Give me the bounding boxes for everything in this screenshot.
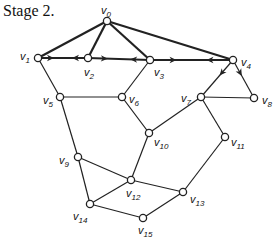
edge-v9-v14	[78, 157, 90, 204]
node-v11	[221, 133, 228, 140]
node-v4	[229, 56, 236, 63]
nodes-layer	[34, 17, 257, 221]
label-v2: v2	[84, 66, 95, 81]
label-v5: v5	[43, 94, 54, 109]
label-v0: v0	[101, 4, 112, 19]
edge-v1-v5	[38, 58, 60, 97]
label-v4: v4	[241, 56, 252, 71]
label-v7: v7	[181, 92, 192, 107]
label-v11: v11	[231, 136, 245, 151]
node-v1	[34, 54, 41, 61]
node-v2	[84, 54, 91, 61]
label-v3: v3	[154, 66, 165, 81]
label-v13: v13	[190, 193, 205, 208]
edge-v12-v13	[131, 180, 183, 192]
labels-layer: v0v1v2v3v4v5v6v7v8v9v10v11v12v13v14v15	[20, 4, 273, 239]
graph-diagram: v0v1v2v3v4v5v6v7v8v9v10v11v12v13v14v15	[0, 0, 276, 239]
edge-v0-v4	[107, 21, 233, 60]
edge-v4-v7	[201, 60, 233, 97]
edge-v3-v6	[122, 60, 150, 97]
edge-v12-v14	[90, 180, 131, 204]
edge-v7-v10	[149, 97, 201, 133]
node-v15	[139, 214, 146, 221]
edge-v2-v3	[88, 58, 150, 60]
node-v5	[56, 93, 63, 100]
node-v3	[146, 56, 153, 63]
label-v1: v1	[20, 50, 30, 65]
node-v6	[118, 93, 125, 100]
label-v10: v10	[154, 136, 169, 151]
edge-v10-v12	[131, 133, 149, 180]
node-v10	[145, 129, 152, 136]
edge-v5-v9	[60, 97, 78, 157]
label-v6: v6	[129, 93, 140, 108]
arrows-layer	[47, 55, 242, 76]
node-v8	[250, 94, 257, 101]
label-v8: v8	[262, 94, 273, 109]
label-v14: v14	[73, 210, 88, 225]
edge-v11-v13	[183, 137, 225, 192]
label-v12: v12	[126, 187, 141, 202]
node-v9	[74, 153, 81, 160]
edge-v7-v8	[201, 97, 254, 98]
edges-layer	[38, 21, 254, 218]
edge-v15-v13	[143, 192, 183, 218]
node-v7	[197, 93, 204, 100]
edge-v7-v11	[201, 97, 225, 137]
node-v12	[127, 176, 134, 183]
label-v9: v9	[59, 154, 70, 169]
edge-v9-v12	[78, 157, 131, 180]
label-v15: v15	[138, 224, 153, 239]
edge-v14-v15	[90, 204, 143, 218]
node-v13	[179, 188, 186, 195]
node-v14	[86, 200, 93, 207]
